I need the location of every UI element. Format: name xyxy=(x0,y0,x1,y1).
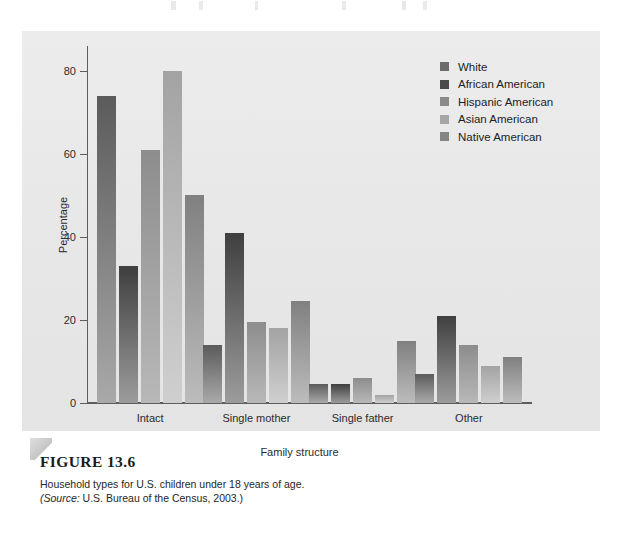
bar xyxy=(225,233,244,403)
page-top-text-fragment xyxy=(150,1,500,10)
figure-source-text: U.S. Bureau of the Census, 2003.) xyxy=(80,492,243,504)
bar xyxy=(481,366,500,403)
x-tick-label: Intact xyxy=(97,412,203,424)
bar xyxy=(269,328,288,403)
bar xyxy=(353,378,372,403)
bar xyxy=(397,341,416,403)
bar xyxy=(97,96,116,403)
figure-number: FIGURE 13.6 xyxy=(40,453,136,471)
legend-label: White xyxy=(458,61,487,73)
bar xyxy=(309,384,328,403)
bar-group xyxy=(309,46,416,403)
bar-group xyxy=(203,46,310,403)
bar xyxy=(247,322,266,403)
legend-swatch-icon xyxy=(440,115,449,124)
legend-label: African American xyxy=(458,78,545,90)
legend-item: Hispanic American xyxy=(440,93,553,111)
y-tick-mark xyxy=(80,154,87,155)
x-tick-label: Other xyxy=(416,412,522,424)
bar xyxy=(331,384,350,403)
legend-item: Native American xyxy=(440,128,553,146)
y-tick-mark xyxy=(80,71,87,72)
legend-label: Native American xyxy=(458,131,542,143)
figure-description-block: Household types for U.S. children under … xyxy=(40,477,304,505)
y-tick-mark xyxy=(80,320,87,321)
figure-page: 020406080 Percentage IntactSingle mother… xyxy=(0,0,622,541)
bar xyxy=(503,357,522,403)
bar xyxy=(203,345,222,403)
y-tick-label: 0 xyxy=(70,398,76,409)
bar-group xyxy=(97,46,204,403)
legend-item: Asian American xyxy=(440,111,553,129)
y-tick-label: 80 xyxy=(64,65,76,76)
bar xyxy=(437,316,456,403)
legend-swatch-icon xyxy=(440,80,449,89)
chart-legend: WhiteAfrican AmericanHispanic AmericanAs… xyxy=(440,58,553,146)
bar xyxy=(163,71,182,403)
y-tick-mark xyxy=(80,403,87,404)
figure-source-prefix: (Source: xyxy=(40,492,80,504)
figure-caption: FIGURE 13.6 Household types for U.S. chi… xyxy=(22,445,600,515)
x-tick-label: Single mother xyxy=(203,412,309,424)
chart-panel: 020406080 Percentage IntactSingle mother… xyxy=(22,31,600,431)
legend-item: White xyxy=(440,58,553,76)
x-tick-label: Single father xyxy=(310,412,416,424)
bar xyxy=(185,195,204,403)
legend-swatch-icon xyxy=(440,132,449,141)
bar xyxy=(415,374,434,403)
y-tick-label: 20 xyxy=(64,314,76,325)
figure-source: (Source: U.S. Bureau of the Census, 2003… xyxy=(40,491,304,505)
figure-description: Household types for U.S. children under … xyxy=(40,477,304,491)
y-tick-label: 60 xyxy=(64,148,76,159)
bar xyxy=(119,266,138,403)
y-tick-mark xyxy=(80,237,87,238)
legend-swatch-icon xyxy=(440,62,449,71)
y-axis-title: Percentage xyxy=(57,196,69,252)
legend-label: Asian American xyxy=(458,113,538,125)
bar xyxy=(141,150,160,403)
bar xyxy=(459,345,478,403)
legend-swatch-icon xyxy=(440,97,449,106)
legend-label: Hispanic American xyxy=(458,96,553,108)
bar xyxy=(375,395,394,403)
bar xyxy=(291,301,310,403)
legend-item: African American xyxy=(440,76,553,94)
